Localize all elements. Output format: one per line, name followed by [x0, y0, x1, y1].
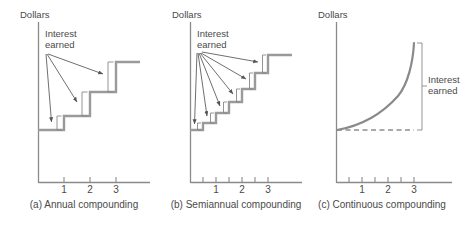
panel-c: Dollars 1 2 3 Interest earned (c) Contin…	[318, 9, 460, 210]
panel-c-ylabel: Dollars	[318, 9, 348, 20]
panel-a-step-curve	[38, 62, 140, 130]
tick-label-1: 1	[359, 184, 365, 195]
arrow-to-year-2	[47, 54, 77, 102]
compounding-figure: Dollars 1 2 3 Interest earned	[0, 0, 462, 227]
panel-b-step-curve	[190, 55, 292, 130]
panel-a: Dollars 1 2 3 Interest earned	[20, 9, 150, 210]
panel-b-annotation-line2: earned	[197, 39, 227, 50]
bracket-period-2	[211, 113, 215, 123]
arrow-to-period-4	[200, 53, 233, 94]
arrow-to-period-1	[195, 53, 198, 124]
tick-label-1: 1	[61, 184, 67, 195]
arrow-to-period-6	[202, 52, 258, 62]
panel-b-tick-labels: 1 2 3	[213, 184, 271, 195]
bracket-period-5	[250, 73, 254, 89]
panel-a-caption: (a) Annual compounding	[30, 199, 138, 210]
panel-a-ylabel: Dollars	[20, 9, 50, 20]
bracket-year-3	[108, 62, 114, 92]
panel-b: Dollars 1 2 3 Interest earned	[171, 9, 302, 210]
tick-label-2: 2	[385, 184, 391, 195]
bracket-year-1	[57, 116, 62, 130]
tick-label-3: 3	[113, 184, 119, 195]
panel-c-growth-curve	[337, 43, 414, 130]
tick-label-3: 3	[265, 184, 271, 195]
panel-a-annotation-line2: earned	[45, 39, 75, 50]
panel-c-annotation-line1: Interest	[428, 74, 460, 85]
panel-c-annotation-line2: earned	[428, 85, 458, 96]
panel-b-caption: (b) Semiannual compounding	[171, 199, 302, 210]
panel-b-ylabel: Dollars	[172, 9, 202, 20]
tick-label-3: 3	[411, 184, 417, 195]
tick-label-2: 2	[87, 184, 93, 195]
bracket-year-2	[82, 92, 88, 116]
panel-c-bracket	[417, 43, 422, 130]
figure-svg: Dollars 1 2 3 Interest earned	[0, 0, 462, 227]
panel-b-annotation-line1: Interest	[197, 28, 229, 39]
panel-c-tick-labels: 1 2 3	[359, 184, 417, 195]
tick-label-2: 2	[239, 184, 245, 195]
tick-label-1: 1	[213, 184, 219, 195]
arrow-to-year-1	[46, 54, 52, 122]
bracket-period-3	[224, 102, 228, 113]
bracket-period-4	[237, 89, 241, 102]
panel-a-tick-labels: 1 2 3	[61, 184, 119, 195]
bracket-period-6	[263, 55, 267, 73]
panel-a-brackets	[57, 62, 114, 130]
panel-a-arrows	[46, 54, 103, 122]
panel-c-caption: (c) Continuous compounding	[318, 199, 446, 210]
panel-a-annotation-line1: Interest	[45, 28, 77, 39]
arrow-to-year-3	[48, 54, 103, 74]
